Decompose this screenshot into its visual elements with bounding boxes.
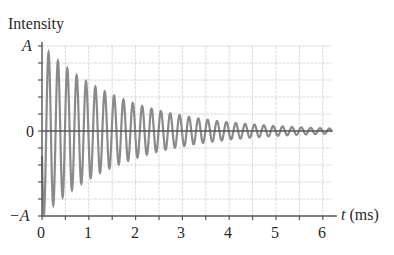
x-tick-label-5: 5 [271,225,279,241]
y-tick-label-max: A [22,38,32,54]
y-axis-title: Intensity [8,16,64,32]
x-axis-variable: t [341,206,345,223]
x-tick-label-3: 3 [177,225,185,241]
x-tick-label-6: 6 [318,225,326,241]
x-tick-label-1: 1 [84,225,92,241]
damped-oscillation-curve [42,53,332,215]
y-tick-label-zero: 0 [26,124,34,140]
x-axis-unit: (ms) [349,206,378,223]
x-axis-title: t (ms) [341,207,379,223]
y-tick-label-min: −A [9,208,30,224]
x-tick-label-2: 2 [131,225,139,241]
chart-canvas [0,0,394,255]
x-tick-label-0: 0 [37,225,45,241]
x-tick-label-4: 4 [224,225,232,241]
